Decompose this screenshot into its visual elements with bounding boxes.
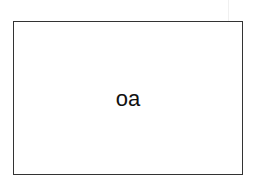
box-label: oa bbox=[116, 86, 140, 112]
diagram-box: oa bbox=[13, 21, 243, 175]
